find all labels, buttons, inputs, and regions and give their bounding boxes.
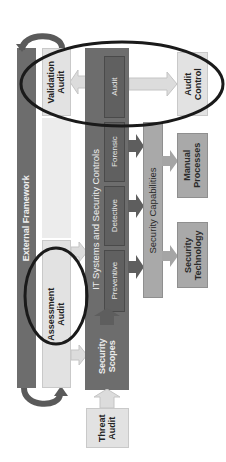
highlight-ellipse-validation	[0, 0, 226, 462]
